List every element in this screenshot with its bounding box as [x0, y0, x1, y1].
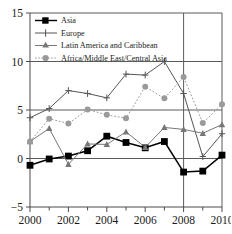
data-point	[161, 138, 168, 145]
legend-entry-europe[interactable]: Europe	[35, 29, 85, 38]
y-label-5: 5	[17, 104, 23, 116]
data-point	[161, 95, 167, 101]
legend-marker-africa	[43, 55, 49, 61]
legend-marker-asia	[42, 17, 48, 23]
data-point	[84, 90, 90, 97]
data-point	[200, 120, 206, 126]
y-tick-labels: 15 10 5 0 −5	[11, 7, 24, 213]
data-series-layer	[27, 58, 226, 175]
y-label-10: 10	[12, 56, 24, 68]
data-point	[161, 124, 167, 130]
x-label-2006: 2006	[134, 214, 157, 226]
chart-legend: Asia Europe Latin America and Caribbean …	[35, 16, 167, 63]
data-point	[27, 162, 34, 169]
data-point	[180, 90, 186, 97]
x-label-2010: 2010	[211, 214, 232, 226]
x-label-2008: 2008	[172, 214, 195, 226]
data-point	[199, 168, 206, 175]
legend-label-europe: Europe	[61, 29, 85, 38]
legend-entry-asia[interactable]: Asia	[35, 16, 76, 25]
x-label-2004: 2004	[95, 214, 118, 226]
data-point	[27, 139, 33, 145]
x-tick-marks	[30, 207, 222, 212]
x-tick-labels: 2000 2002 2004 2006 2008 2010	[19, 214, 232, 226]
series-asia	[27, 133, 226, 176]
y-tick-marks	[26, 13, 30, 207]
data-point	[65, 153, 72, 160]
data-point	[123, 115, 129, 121]
legend-marker-latin-america	[42, 42, 49, 48]
data-point	[104, 112, 110, 118]
chart-container: 15 10 5 0 −5 2000 2002 2004 2006 2008 20…	[0, 0, 231, 234]
y-label-minus5: −5	[11, 201, 23, 213]
y-label-15: 15	[12, 7, 24, 19]
data-point	[85, 107, 91, 113]
data-point	[123, 128, 129, 134]
legend-label-asia: Asia	[61, 16, 76, 25]
data-point	[142, 84, 148, 90]
legend-label-latin-america: Latin America and Caribbean	[61, 41, 158, 50]
data-point	[46, 156, 53, 163]
x-label-2000: 2000	[19, 214, 42, 226]
y-label-0: 0	[17, 153, 23, 165]
data-point	[219, 152, 226, 159]
data-point	[65, 121, 71, 127]
legend-label-africa: Africa/Middle East/Central Asia	[61, 54, 167, 63]
data-point	[123, 139, 130, 146]
data-point	[180, 169, 187, 176]
line-chart: 15 10 5 0 −5 2000 2002 2004 2006 2008 20…	[0, 0, 231, 234]
data-point	[142, 72, 148, 79]
data-point	[46, 125, 52, 131]
data-point	[46, 116, 52, 122]
data-point	[103, 133, 110, 140]
data-point	[219, 101, 225, 107]
data-point	[181, 74, 187, 80]
data-point	[219, 121, 225, 127]
data-point	[27, 114, 33, 121]
legend-entry-latin-america[interactable]: Latin America and Caribbean	[35, 41, 158, 50]
data-point	[84, 147, 91, 154]
x-label-2002: 2002	[57, 214, 80, 226]
